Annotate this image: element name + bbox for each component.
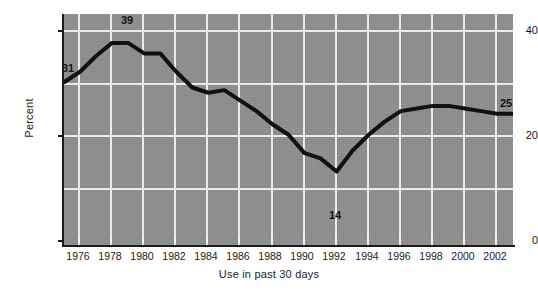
point-label-start: 31 (64, 63, 74, 74)
data-series-line (64, 14, 513, 245)
ytick-label-40: 40 (482, 25, 538, 36)
ytick-mark (58, 135, 63, 137)
xtick-label-2002: 2002 (475, 250, 515, 262)
plot-area: 31 39 14 25 (64, 14, 513, 245)
x-axis-line (62, 245, 515, 247)
point-label-peak: 39 (121, 15, 133, 26)
ytick-label-0: 0 (482, 235, 538, 246)
ytick-mark (58, 30, 63, 32)
ytick-mark (58, 240, 63, 242)
ytick-label-20: 20 (482, 130, 538, 141)
chart-figure: 31 39 14 25 40 20 0 1976 1978 1980 1982 … (0, 0, 538, 293)
x-axis-title: Use in past 30 days (0, 268, 538, 280)
y-axis-title: Percent (23, 73, 35, 163)
point-label-end: 25 (500, 98, 512, 109)
point-label-trough: 14 (329, 210, 341, 221)
y-axis-line (62, 14, 64, 247)
